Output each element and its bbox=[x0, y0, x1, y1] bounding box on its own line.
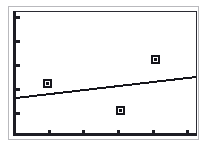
x-axis-tick bbox=[186, 130, 189, 134]
y-axis-tick bbox=[16, 40, 20, 43]
plot-area-frame bbox=[13, 11, 197, 136]
x-axis-tick bbox=[48, 130, 51, 134]
x-axis-tick bbox=[152, 130, 155, 134]
x-axis-spine bbox=[13, 133, 197, 136]
y-axis-tick bbox=[16, 16, 20, 19]
data-point-marker bbox=[151, 55, 160, 64]
x-axis-tick bbox=[117, 130, 120, 134]
marker-center-dot bbox=[46, 82, 49, 85]
data-point-marker bbox=[116, 106, 125, 115]
y-axis-tick bbox=[16, 64, 20, 67]
x-axis-tick bbox=[82, 130, 85, 134]
data-point-marker bbox=[43, 79, 52, 88]
y-axis-tick bbox=[16, 88, 20, 91]
marker-center-dot bbox=[154, 58, 157, 61]
y-axis-tick bbox=[16, 112, 20, 115]
scatter-plot-figure bbox=[0, 0, 207, 147]
y-axis-spine bbox=[13, 11, 16, 136]
marker-center-dot bbox=[119, 109, 122, 112]
